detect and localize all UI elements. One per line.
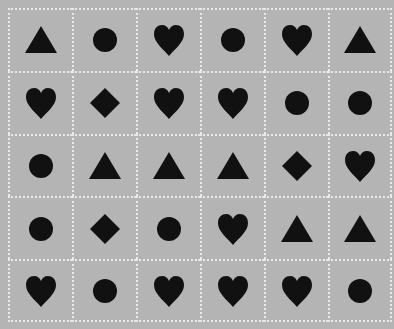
heart-icon xyxy=(24,274,58,308)
board-cell[interactable] xyxy=(200,259,264,322)
triangle-icon xyxy=(343,23,377,57)
heart-icon xyxy=(216,212,250,246)
heart-icon xyxy=(152,86,186,120)
board-cell[interactable] xyxy=(264,259,328,322)
board-cell[interactable] xyxy=(328,8,392,71)
board-cell[interactable] xyxy=(328,259,392,322)
heart-icon xyxy=(280,274,314,308)
board-cell[interactable] xyxy=(328,134,392,197)
board-cell[interactable] xyxy=(264,134,328,197)
heart-icon xyxy=(152,274,186,308)
board-cell[interactable] xyxy=(72,134,136,197)
triangle-icon xyxy=(152,149,186,183)
board-cell[interactable] xyxy=(328,196,392,259)
heart-icon xyxy=(24,86,58,120)
board-cell[interactable] xyxy=(8,259,72,322)
circle-icon xyxy=(216,23,250,57)
board-cell[interactable] xyxy=(72,71,136,134)
heart-icon xyxy=(216,274,250,308)
board-cell[interactable] xyxy=(72,196,136,259)
circle-icon xyxy=(152,212,186,246)
heart-icon xyxy=(280,23,314,57)
board-cell[interactable] xyxy=(136,259,200,322)
board-cell[interactable] xyxy=(8,71,72,134)
board-cell[interactable] xyxy=(72,8,136,71)
diamond-icon xyxy=(88,212,122,246)
board-cell[interactable] xyxy=(8,8,72,71)
circle-icon xyxy=(88,274,122,308)
board-cell[interactable] xyxy=(72,259,136,322)
circle-icon xyxy=(343,86,377,120)
board-cell[interactable] xyxy=(328,71,392,134)
triangle-icon xyxy=(280,212,314,246)
board-cell[interactable] xyxy=(200,134,264,197)
board-cell[interactable] xyxy=(200,71,264,134)
board-cell[interactable] xyxy=(136,134,200,197)
diamond-icon xyxy=(88,86,122,120)
heart-icon xyxy=(216,86,250,120)
board-cell[interactable] xyxy=(264,8,328,71)
board-cell[interactable] xyxy=(136,196,200,259)
circle-icon xyxy=(24,212,58,246)
game-board xyxy=(8,8,392,322)
board-cell[interactable] xyxy=(264,196,328,259)
board-cell[interactable] xyxy=(8,196,72,259)
triangle-icon xyxy=(343,212,377,246)
heart-icon xyxy=(343,149,377,183)
circle-icon xyxy=(343,274,377,308)
triangle-icon xyxy=(24,23,58,57)
circle-icon xyxy=(88,23,122,57)
board-cell[interactable] xyxy=(200,196,264,259)
diamond-icon xyxy=(280,149,314,183)
triangle-icon xyxy=(216,149,250,183)
board-cell[interactable] xyxy=(136,8,200,71)
triangle-icon xyxy=(88,149,122,183)
circle-icon xyxy=(280,86,314,120)
board-cell[interactable] xyxy=(200,8,264,71)
board-cell[interactable] xyxy=(8,134,72,197)
board-cell[interactable] xyxy=(136,71,200,134)
circle-icon xyxy=(24,149,58,183)
heart-icon xyxy=(152,23,186,57)
board-cell[interactable] xyxy=(264,71,328,134)
